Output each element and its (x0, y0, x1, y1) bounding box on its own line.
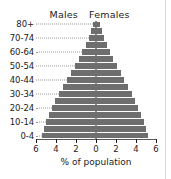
pyramid-row (36, 111, 156, 118)
pyramid-row (36, 35, 156, 42)
pyramid-row (36, 125, 156, 132)
population-pyramid-figure: Males Females 80+70-7460-6450-5440-4430-… (0, 0, 171, 179)
age-group-label: 40-44 (10, 75, 34, 85)
male-bar (52, 105, 96, 111)
pyramid-row (36, 21, 156, 28)
x-axis-tick (56, 139, 57, 143)
female-bar (96, 63, 117, 69)
pyramid-row (36, 90, 156, 97)
male-bar (75, 63, 96, 69)
x-axis-tick (116, 139, 117, 143)
female-bar (96, 77, 124, 83)
males-header-label: Males (50, 9, 78, 20)
age-group-label: 10-14 (10, 117, 34, 127)
female-bar (96, 28, 102, 34)
females-header-label: Females (89, 9, 130, 20)
pyramid-bar-pair (36, 83, 156, 90)
male-bar (46, 119, 96, 125)
female-bar (96, 70, 121, 76)
male-bar (49, 112, 96, 118)
male-bar (63, 84, 96, 90)
age-group-label: 0-4 (20, 131, 34, 141)
female-bar (96, 35, 104, 41)
female-bar (96, 56, 113, 62)
pyramid-bar-pair (36, 63, 156, 70)
pyramid-bar-pair (36, 21, 156, 28)
female-bar (96, 42, 107, 48)
x-axis-title: % of population (36, 157, 156, 167)
female-bar (96, 119, 144, 125)
female-bar (96, 91, 132, 97)
age-group-axis-labels: 80+70-7460-6450-5440-4430-3420-2410-140-… (0, 21, 35, 139)
pyramid-row (36, 63, 156, 70)
pyramid-bar-pair (36, 125, 156, 132)
pyramid-bar-pair (36, 118, 156, 125)
x-axis-tick (36, 139, 37, 143)
x-axis-tick (136, 139, 137, 143)
pyramid-bar-pair (36, 35, 156, 42)
pyramid-row (36, 42, 156, 49)
female-bar (96, 49, 110, 55)
age-group-label: 70-74 (10, 33, 34, 43)
female-bar (96, 112, 141, 118)
pyramid-row (36, 49, 156, 56)
pyramid-row (36, 28, 156, 35)
pyramid-bar-pair (36, 70, 156, 77)
pyramid-bar-pair (36, 132, 156, 139)
figure-right-border (165, 0, 166, 179)
male-bar (67, 77, 96, 83)
age-group-label: 20-24 (10, 103, 34, 113)
female-bar (96, 84, 128, 90)
x-axis-tick-label: 2 (113, 144, 118, 154)
x-axis-tick (76, 139, 77, 143)
female-bar (96, 105, 138, 111)
pyramid-bar-pair (36, 49, 156, 56)
pyramid-bar-pair (36, 104, 156, 111)
age-group-label: 50-54 (10, 61, 34, 71)
age-group-label: 80+ (16, 19, 34, 29)
x-axis-tick-label: 4 (53, 144, 58, 154)
male-bar (55, 98, 96, 104)
pyramid-row (36, 77, 156, 84)
pyramid-bar-pair (36, 56, 156, 63)
pyramid-bar-pair (36, 111, 156, 118)
pyramid-bar-pair (36, 77, 156, 84)
age-group-label: 30-34 (10, 89, 34, 99)
pyramid-row (36, 56, 156, 63)
male-bar (71, 70, 96, 76)
x-axis-tick (96, 139, 97, 143)
pyramid-bar-pair (36, 90, 156, 97)
female-bar (96, 133, 148, 139)
pyramid-row (36, 83, 156, 90)
male-bar (59, 91, 96, 97)
pyramid-plot-area (36, 21, 156, 139)
male-bar (44, 126, 96, 132)
x-axis-tick (156, 139, 157, 143)
pyramid-row (36, 97, 156, 104)
pyramid-row (36, 118, 156, 125)
male-bar (86, 42, 97, 48)
male-bar (89, 35, 97, 41)
pyramid-bar-pair (36, 97, 156, 104)
x-axis-tick-label: 2 (73, 144, 78, 154)
male-bar (42, 133, 96, 139)
male-bar (79, 56, 96, 62)
x-axis-tick-label: 6 (33, 144, 38, 154)
x-axis-tick-labels: 6420246 (36, 144, 156, 156)
female-bar (96, 98, 135, 104)
female-bar (96, 126, 146, 132)
x-axis-tick-label: 0 (93, 144, 98, 154)
pyramid-bar-pair (36, 28, 156, 35)
pyramid-row (36, 70, 156, 77)
pyramid-row (36, 104, 156, 111)
male-bar (82, 49, 96, 55)
age-group-label: 60-64 (10, 47, 34, 57)
female-bar (96, 22, 100, 28)
x-axis-tick-label: 6 (153, 144, 158, 154)
pyramid-row (36, 132, 156, 139)
pyramid-bar-pair (36, 42, 156, 49)
x-axis-tick-label: 4 (133, 144, 138, 154)
